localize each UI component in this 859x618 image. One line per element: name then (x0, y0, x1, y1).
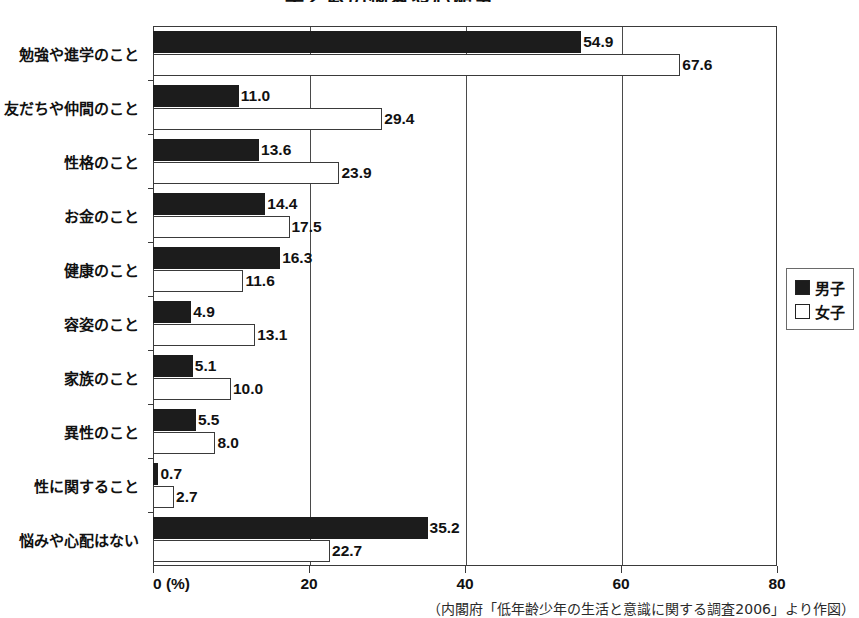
bar-group: 13.623.9 (153, 134, 777, 188)
category-label: 家族のこと (0, 367, 139, 388)
x-axis-label: 40 (456, 575, 473, 593)
bar-group: 4.913.1 (153, 296, 777, 350)
bar-value-label: 5.5 (198, 411, 220, 429)
bar-female: 67.6 (153, 54, 680, 76)
bar-group: 14.417.5 (153, 188, 777, 242)
legend-label: 女子 (815, 301, 845, 322)
bar-female: 10.0 (153, 378, 231, 400)
bar-female: 22.7 (153, 540, 330, 562)
source-note: （内閣府「低年齢少年の生活と意識に関する調査2006」より作図） (0, 598, 859, 618)
bar-value-label: 29.4 (384, 110, 414, 128)
y-axis-tick (148, 512, 153, 513)
bar-value-label: 54.9 (583, 33, 613, 51)
bar-female: 23.9 (153, 162, 339, 184)
bar-chart: 子どもの悩みや心配事 勉強や進学のこと友だちや仲間のこと性格のことお金のこと健康… (0, 0, 859, 618)
bar-male: 5.5 (153, 409, 196, 431)
legend-item: 女子 (795, 299, 853, 323)
bar-group: 35.222.7 (153, 512, 777, 566)
bar-group: 16.311.6 (153, 242, 777, 296)
bar-male: 0.7 (153, 463, 158, 485)
category-label: 健康のこと (0, 259, 139, 280)
bar-male: 11.0 (153, 85, 239, 107)
bar-value-label: 23.9 (341, 164, 371, 182)
bar-value-label: 2.7 (176, 488, 198, 506)
y-axis-tick (148, 134, 153, 135)
bar-group: 54.967.6 (153, 26, 777, 80)
x-axis-tick (465, 566, 466, 573)
bar-value-label: 35.2 (430, 519, 460, 537)
y-axis-tick (148, 458, 153, 459)
y-axis-tick (148, 80, 153, 81)
y-axis-tick (148, 296, 153, 297)
bar-value-label: 14.4 (267, 195, 297, 213)
y-axis-tick (148, 350, 153, 351)
bar-value-label: 16.3 (282, 249, 312, 267)
bar-female: 17.5 (153, 216, 290, 238)
bar-male: 35.2 (153, 517, 428, 539)
x-axis: 0 (%)20406080 (153, 566, 777, 596)
legend-item: 男子 (795, 275, 853, 299)
bar-group: 11.029.4 (153, 80, 777, 134)
bar-value-label: 8.0 (217, 434, 239, 452)
bar-value-label: 17.5 (292, 218, 322, 236)
category-label: 勉強や進学のこと (0, 43, 139, 64)
bar-female: 8.0 (153, 432, 215, 454)
category-label: 性に関すること (0, 475, 139, 496)
legend-swatch-icon (795, 280, 810, 295)
bar-female: 29.4 (153, 108, 382, 130)
y-axis-tick (148, 188, 153, 189)
bar-value-label: 10.0 (233, 380, 263, 398)
bar-value-label: 13.1 (257, 326, 287, 344)
bar-series-container: 54.967.611.029.413.623.914.417.516.311.6… (153, 26, 777, 566)
y-axis-tick (148, 404, 153, 405)
bar-value-label: 22.7 (332, 542, 362, 560)
category-label: 友だちや仲間のこと (0, 97, 139, 118)
x-axis-tick (777, 566, 778, 573)
category-axis-labels: 勉強や進学のこと友だちや仲間のこと性格のことお金のこと健康のこと容姿のこと家族の… (0, 26, 147, 566)
x-axis-tick (309, 566, 310, 573)
bar-group: 0.72.7 (153, 458, 777, 512)
bar-male: 13.6 (153, 139, 259, 161)
bar-value-label: 11.6 (245, 272, 274, 290)
chart-legend: 男子女子 (786, 268, 854, 330)
legend-swatch-icon (795, 304, 810, 319)
bar-male: 14.4 (153, 193, 265, 215)
bar-value-label: 4.9 (193, 303, 215, 321)
bar-female: 13.1 (153, 324, 255, 346)
x-axis-label: 20 (300, 575, 317, 593)
chart-title: 子どもの悩みや心配事 (0, 0, 780, 2)
category-label: 悩みや心配はない (0, 529, 139, 550)
bar-group: 5.58.0 (153, 404, 777, 458)
bar-value-label: 67.6 (682, 56, 712, 74)
bar-male: 16.3 (153, 247, 280, 269)
bar-value-label: 5.1 (195, 357, 217, 375)
bar-male: 5.1 (153, 355, 193, 377)
legend-label: 男子 (815, 277, 845, 298)
category-label: お金のこと (0, 205, 139, 226)
category-label: 異性のこと (0, 421, 139, 442)
x-axis-label: 0 (%) (153, 575, 190, 593)
bar-female: 11.6 (153, 270, 243, 292)
bar-female: 2.7 (153, 486, 174, 508)
bar-value-label: 11.0 (241, 87, 270, 105)
x-axis-tick (153, 566, 154, 573)
bar-male: 4.9 (153, 301, 191, 323)
x-axis-label: 80 (768, 575, 785, 593)
category-label: 性格のこと (0, 151, 139, 172)
x-axis-tick (621, 566, 622, 573)
bar-value-label: 13.6 (261, 141, 291, 159)
x-axis-label: 60 (612, 575, 629, 593)
category-label: 容姿のこと (0, 313, 139, 334)
y-axis-tick (148, 242, 153, 243)
bar-group: 5.110.0 (153, 350, 777, 404)
bar-male: 54.9 (153, 31, 581, 53)
bar-value-label: 0.7 (160, 465, 182, 483)
